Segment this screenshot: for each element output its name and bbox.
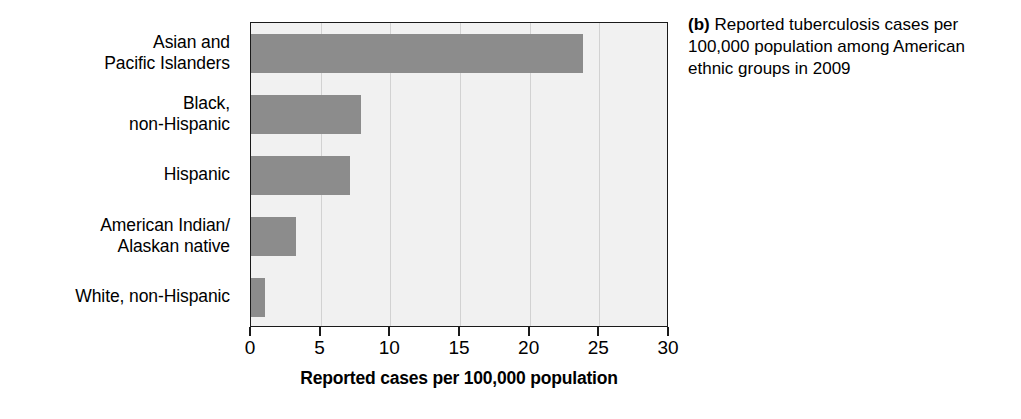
x-axis-tick-label: 20 — [518, 336, 539, 359]
bar — [251, 34, 583, 73]
x-axis-tick — [249, 327, 251, 336]
caption-tag: (b) — [688, 15, 710, 34]
category-label: White, non-Hispanic — [0, 286, 230, 307]
x-axis-tick-labels: 051015202530 — [250, 336, 668, 362]
x-axis-tick — [388, 327, 390, 336]
bar — [251, 217, 296, 256]
x-axis-tick — [597, 327, 599, 336]
x-axis-tick-label: 25 — [588, 336, 609, 359]
category-label: Black, non-Hispanic — [0, 93, 230, 135]
x-axis-tick — [528, 327, 530, 336]
bar — [251, 156, 350, 195]
plot-area — [250, 22, 668, 327]
category-label: American Indian/ Alaskan native — [0, 215, 230, 257]
bar — [251, 95, 361, 134]
x-axis-title: Reported cases per 100,000 population — [250, 368, 668, 389]
category-axis-labels: Asian and Pacific Islanders Black, non-H… — [0, 22, 240, 327]
category-label: Asian and Pacific Islanders — [0, 32, 230, 74]
caption-text: Reported tuberculosis cases per 100,000 … — [688, 15, 965, 78]
figure-panel-b: Asian and Pacific Islanders Black, non-H… — [0, 0, 1021, 419]
x-axis-tick-label: 10 — [379, 336, 400, 359]
x-axis-tick-label: 5 — [314, 336, 325, 359]
category-label: Hispanic — [0, 164, 230, 185]
x-axis-tick-label: 0 — [245, 336, 256, 359]
x-axis-tick-label: 30 — [657, 336, 678, 359]
x-axis-tick-label: 15 — [448, 336, 469, 359]
figure-caption: (b) Reported tuberculosis cases per 100,… — [688, 14, 1008, 80]
x-axis-tick — [319, 327, 321, 336]
gridline — [599, 23, 600, 326]
x-axis-tick — [458, 327, 460, 336]
bar — [251, 278, 265, 317]
x-axis-tick — [667, 327, 669, 336]
